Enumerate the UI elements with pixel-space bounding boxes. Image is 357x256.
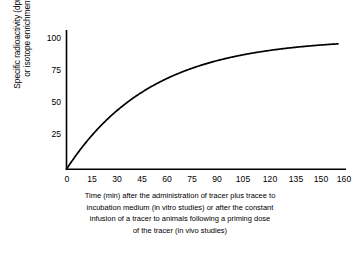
x-axis-caption: Time (min) after the administration of t… [30,190,330,236]
x-axis-caption-line-1: Time (min) after the administration of t… [30,190,330,202]
figure-container: Specific radioactivity (dpm/nmol) or iso… [0,0,357,256]
data-curve [67,44,338,169]
x-axis-caption-line-3: infusion of a tracer to animals followin… [30,213,330,225]
x-axis-caption-line-2: incubation medium (in vitro studies) or … [30,202,330,214]
x-axis-caption-line-4: of the tracer (in vivo studies) [30,225,330,237]
